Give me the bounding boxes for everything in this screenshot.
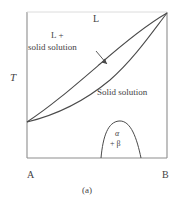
phase-diagram-figure: L L + solid solution Solid solution α + … — [0, 0, 180, 208]
plot-frame — [27, 12, 167, 158]
y-axis-label: T — [10, 72, 16, 84]
x-axis-left-endmember-label: A — [27, 170, 34, 181]
x-axis-right-endmember-label: B — [162, 170, 169, 181]
region-label-liquid-plus: L + — [51, 31, 64, 40]
region-label-alpha: α — [115, 130, 119, 138]
liquidus-curve — [27, 13, 167, 122]
alpha-beta-solvus-dome — [101, 121, 141, 158]
figure-caption: (a) — [82, 186, 92, 195]
region-label-alpha-plus-beta: + β — [110, 140, 121, 148]
region-label-liquid: L — [93, 14, 99, 25]
region-label-solid-solution: Solid solution — [97, 88, 147, 97]
region-label-liquid-plus-solid-solution: solid solution — [28, 43, 77, 52]
solidus-curve — [27, 13, 167, 122]
